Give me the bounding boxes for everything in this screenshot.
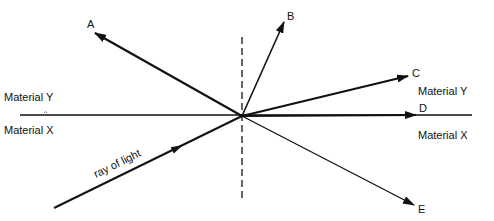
incident-ray-line xyxy=(54,116,242,208)
ray-a-label: A xyxy=(87,18,95,30)
outgoing-rays: ABCDE xyxy=(87,10,427,215)
ray-d-line xyxy=(242,115,416,116)
ray-a-line xyxy=(95,33,242,116)
ray-b-line xyxy=(242,22,284,116)
material-y-label-left: Material Y xyxy=(4,91,54,103)
ray-b-label: B xyxy=(287,10,294,22)
material-x-label-right: Material X xyxy=(418,129,468,141)
ray-e-label: E xyxy=(418,203,425,215)
material-y-label-right: Material Y xyxy=(418,85,468,97)
refraction-diagram: ABCDE Material Y Material X Material Y M… xyxy=(0,0,494,221)
material-x-label-left: Material X xyxy=(4,124,54,136)
incident-ray-arrow-icon xyxy=(171,145,183,153)
ray-c-label: C xyxy=(412,67,420,79)
ray-d-label: D xyxy=(419,102,427,114)
stray-mark xyxy=(44,112,47,114)
ray-c-line xyxy=(242,76,408,116)
ray-e-line xyxy=(242,116,414,205)
ray-of-light-label: ray of light xyxy=(92,147,143,180)
